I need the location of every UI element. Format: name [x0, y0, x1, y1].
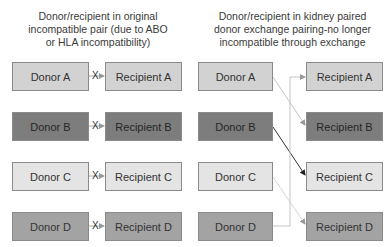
- incompatible-mark: X: [92, 70, 99, 81]
- right-donor-c: Donor C: [198, 162, 273, 191]
- exchange-c-to-d: [273, 177, 305, 224]
- recipient-label: Recipient A: [317, 71, 373, 83]
- donor-label: Donor B: [30, 121, 70, 133]
- exchange-b-to-c: [273, 127, 305, 175]
- exchange-a-to-b: [273, 77, 305, 125]
- left-donor-b: Donor B: [12, 112, 89, 141]
- left-donor-c: Donor C: [12, 162, 89, 191]
- right-recipient-a: Recipient A: [306, 62, 383, 91]
- recipient-label: Recipient C: [316, 171, 373, 183]
- left-recipient-c: Recipient C: [105, 162, 182, 191]
- donor-label: Donor C: [215, 171, 256, 183]
- donor-label: Donor C: [30, 171, 71, 183]
- donor-label: Donor D: [30, 221, 71, 233]
- right-recipient-c: Recipient C: [306, 162, 383, 191]
- left-donor-d: Donor D: [12, 212, 89, 241]
- recipient-label: Recipient B: [115, 121, 171, 133]
- left-recipient-a: Recipient A: [105, 62, 182, 91]
- recipient-label: Recipient D: [316, 221, 373, 233]
- right-recipient-d: Recipient D: [306, 212, 383, 241]
- incompatible-mark: X: [92, 170, 99, 181]
- right-donor-a: Donor A: [198, 62, 273, 91]
- recipient-label: Recipient C: [115, 171, 172, 183]
- recipient-label: Recipient D: [115, 221, 172, 233]
- incompatible-mark: X: [92, 220, 99, 231]
- recipient-label: Recipient A: [116, 71, 172, 83]
- left-recipient-b: Recipient B: [105, 112, 182, 141]
- donor-label: Donor D: [215, 221, 256, 233]
- donor-label: Donor A: [31, 71, 71, 83]
- recipient-label: Recipient B: [316, 121, 372, 133]
- donor-label: Donor A: [216, 71, 256, 83]
- left-recipient-d: Recipient D: [105, 212, 182, 241]
- left-donor-a: Donor A: [12, 62, 89, 91]
- donor-label: Donor B: [215, 121, 255, 133]
- right-recipient-b: Recipient B: [306, 112, 383, 141]
- incompatible-mark: X: [92, 120, 99, 131]
- right-donor-d: Donor D: [198, 212, 273, 241]
- right-donor-b: Donor B: [198, 112, 273, 141]
